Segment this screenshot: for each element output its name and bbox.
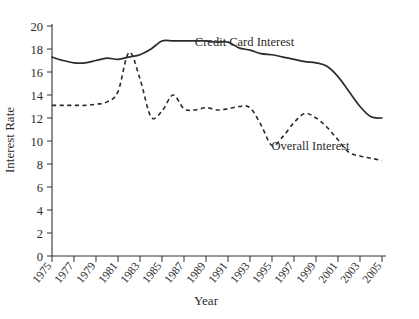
x-tick-label: 1977 <box>52 260 76 286</box>
x-tick-label: 2005 <box>360 260 384 286</box>
x-tick-label: 1991 <box>206 260 230 286</box>
x-tick-label: 1993 <box>228 260 252 286</box>
x-tick-label: 1981 <box>96 260 120 286</box>
x-tick-label: 1995 <box>250 260 274 286</box>
y-axis-tick-labels: 02468101214161820 <box>31 20 44 264</box>
y-tick-label: 12 <box>31 112 44 126</box>
y-tick-label: 4 <box>37 204 44 218</box>
x-tick-label: 1979 <box>74 260 98 286</box>
x-axis-ticks <box>52 256 382 262</box>
series-label: Credit Card Interest <box>195 35 295 49</box>
y-tick-label: 16 <box>31 66 44 80</box>
x-tick-label: 1975 <box>30 260 54 286</box>
x-tick-label: 2001 <box>316 260 340 286</box>
y-tick-label: 10 <box>31 135 44 149</box>
y-tick-label: 6 <box>37 181 43 195</box>
y-axis-ticks <box>47 26 52 256</box>
series-credit-card-interest <box>52 40 382 118</box>
y-tick-label: 2 <box>37 227 43 241</box>
x-tick-label: 1989 <box>184 260 208 286</box>
x-tick-label: 1983 <box>118 260 142 286</box>
series-labels: Credit Card InterestOverall Interest <box>195 35 350 154</box>
y-tick-label: 20 <box>31 20 44 34</box>
y-tick-label: 14 <box>31 89 44 103</box>
x-tick-label: 2003 <box>338 260 362 286</box>
x-tick-label: 1985 <box>140 260 164 286</box>
chart-container: 02468101214161820 1975197719791981198319… <box>0 0 419 319</box>
x-tick-label: 1987 <box>162 260 186 286</box>
x-axis-tick-labels: 1975197719791981198319851987198919911993… <box>30 260 384 286</box>
x-axis-title: Year <box>194 293 219 308</box>
y-tick-label: 8 <box>37 158 43 172</box>
line-chart: 02468101214161820 1975197719791981198319… <box>0 0 419 319</box>
x-tick-label: 1997 <box>272 260 296 286</box>
x-tick-label: 1999 <box>294 260 318 286</box>
y-tick-label: 18 <box>31 43 44 57</box>
y-axis-title: Interest Rate <box>2 107 17 173</box>
series-label: Overall Interest <box>271 139 350 153</box>
